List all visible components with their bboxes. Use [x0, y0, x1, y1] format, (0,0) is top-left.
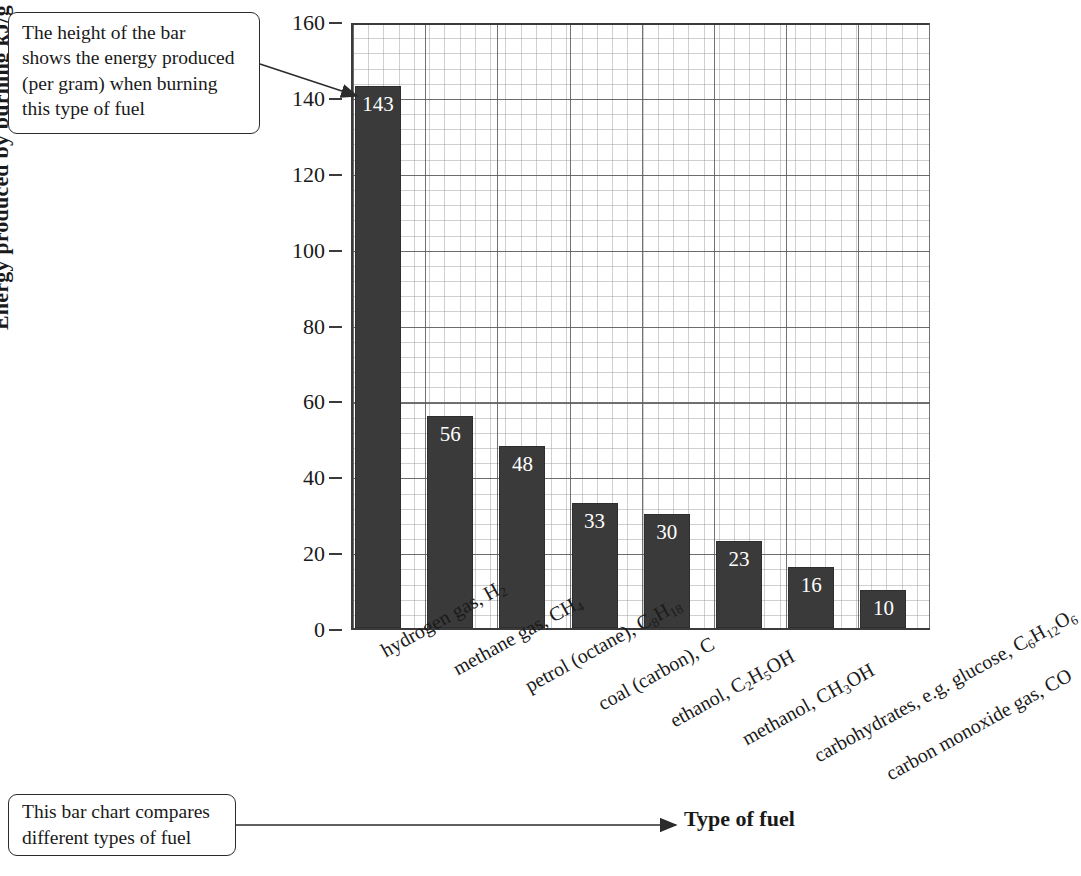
- callout-bar-height-note: The height of the bar shows the energy p…: [8, 12, 260, 134]
- callout-chart-purpose-note: This bar chart compares different types …: [8, 794, 236, 856]
- x-axis-title: Type of fuel: [684, 806, 795, 832]
- callout-chart-purpose-text: This bar chart compares different types …: [22, 799, 210, 850]
- callout-bar-height-text: The height of the bar shows the energy p…: [22, 20, 248, 121]
